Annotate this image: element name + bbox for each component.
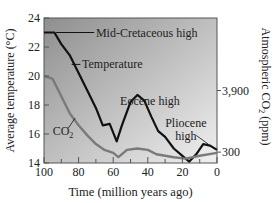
chart: 1008060402001416182022243,900300Time (mi…: [0, 0, 274, 203]
y-axis-title-left: Average temperature (°C): [3, 29, 17, 153]
label-pliocene-1: Pliocene: [165, 116, 206, 130]
y-tick-label: 22: [28, 40, 40, 54]
y-tick-label: 18: [28, 98, 40, 112]
x-tick-label: 0: [214, 165, 220, 179]
x-tick-label: 80: [73, 165, 85, 179]
y-right-tick-label: 300: [222, 145, 240, 159]
x-axis-title: Time (million years ago): [68, 185, 192, 199]
y-tick-label: 16: [28, 127, 40, 141]
y-tick-label: 14: [28, 156, 40, 170]
y-axis-title-right: Atmospheric CO2 (ppm): [257, 28, 273, 146]
label-mid-cretaceous: Mid-Cretaceous high: [96, 26, 198, 40]
y-tick-label: 20: [28, 69, 40, 83]
x-tick-label: 60: [107, 165, 119, 179]
label-temperature: Temperature: [82, 57, 142, 71]
label-eocene-high: Eocene high: [120, 94, 180, 108]
x-tick-label: 20: [176, 165, 188, 179]
y-right-tick-label: 3,900: [222, 84, 249, 98]
label-pliocene-2: high: [175, 129, 196, 143]
x-tick-label: 40: [142, 165, 154, 179]
y-tick-label: 24: [28, 11, 40, 25]
